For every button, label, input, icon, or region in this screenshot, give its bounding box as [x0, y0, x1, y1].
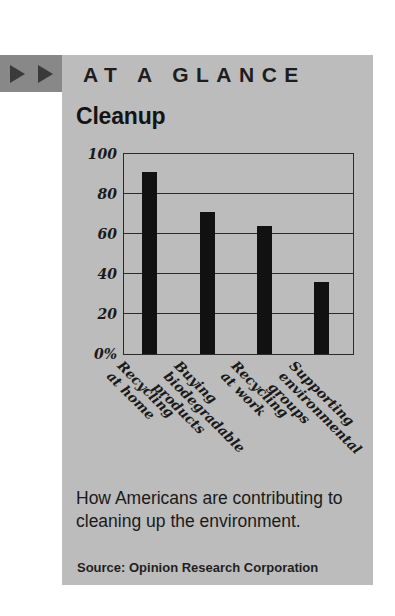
bar-chart: 0%20406080100	[62, 148, 373, 363]
chart-title: Cleanup	[76, 103, 165, 130]
y-tick-label: 80	[98, 186, 117, 202]
header-marker-block	[0, 55, 62, 92]
gridline-60	[124, 233, 353, 235]
caption-text: How Americans are contributing to cleani…	[76, 487, 356, 533]
source-credit: Source: Opinion Research Corporation	[77, 560, 367, 575]
triangle-right-icon	[10, 65, 25, 83]
y-tick-label: 60	[98, 226, 117, 242]
header-title: AT A GLANCE	[83, 58, 368, 92]
x-axis-category-labels: Recycling at homeBuying biodegradable pr…	[62, 358, 373, 478]
gridline-40	[124, 273, 353, 275]
bar	[314, 282, 329, 354]
y-tick-label: 100	[88, 146, 117, 162]
plot-frame: 0%20406080100	[123, 153, 354, 355]
bar	[142, 172, 157, 354]
bar	[257, 226, 272, 354]
bar	[200, 212, 215, 354]
gridline-80	[124, 193, 353, 195]
y-tick-label: 20	[98, 306, 117, 322]
y-tick-label: 40	[98, 266, 117, 282]
triangle-right-icon	[38, 65, 53, 83]
